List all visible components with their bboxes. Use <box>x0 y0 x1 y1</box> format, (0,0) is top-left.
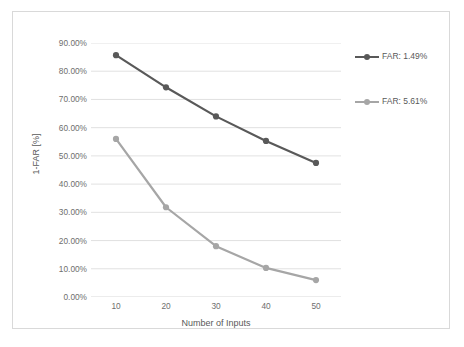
x-tick-label: 10 <box>111 302 120 310</box>
chart-frame: 0.00%10.00%20.00%30.00%40.00%50.00%60.00… <box>12 11 450 329</box>
y-tick-label: 20.00% <box>25 236 87 244</box>
legend-swatch-icon <box>355 97 379 106</box>
data-point <box>313 160 319 166</box>
x-tick-label: 50 <box>311 302 320 310</box>
data-point <box>163 84 169 90</box>
data-point <box>313 277 319 283</box>
y-tick-label: 0.00% <box>25 293 87 301</box>
plot-svg <box>91 43 341 297</box>
y-tick-label: 10.00% <box>25 265 87 273</box>
series-layer <box>113 52 319 283</box>
legend-entry-2[interactable]: FAR: 5.61% <box>355 97 427 106</box>
series-line-2 <box>116 139 316 280</box>
gridlines <box>91 43 341 297</box>
legend-label: FAR: 1.49% <box>382 52 427 61</box>
y-tick-label: 80.00% <box>25 67 87 75</box>
x-tick-label: 40 <box>261 302 270 310</box>
data-point <box>213 243 219 249</box>
legend-swatch-icon <box>355 52 379 61</box>
chart-figure: 0.00%10.00%20.00%30.00%40.00%50.00%60.00… <box>0 0 464 347</box>
data-point <box>113 52 119 58</box>
x-axis-tick-labels: 1020304050 <box>91 302 341 316</box>
y-tick-label: 90.00% <box>25 39 87 47</box>
y-axis-title: 1-FAR [%] <box>31 109 41 199</box>
x-axis-title: Number of Inputs <box>91 318 341 328</box>
x-tick-label: 20 <box>161 302 170 310</box>
data-point <box>263 138 269 144</box>
data-point <box>263 265 269 271</box>
data-point <box>163 204 169 210</box>
y-tick-label: 70.00% <box>25 95 87 103</box>
legend-label: FAR: 5.61% <box>382 97 427 106</box>
data-point <box>113 136 119 142</box>
legend-entry-1[interactable]: FAR: 1.49% <box>355 52 427 61</box>
data-point <box>213 113 219 119</box>
y-tick-label: 30.00% <box>25 208 87 216</box>
plot-area <box>91 43 341 297</box>
x-tick-label: 30 <box>211 302 220 310</box>
